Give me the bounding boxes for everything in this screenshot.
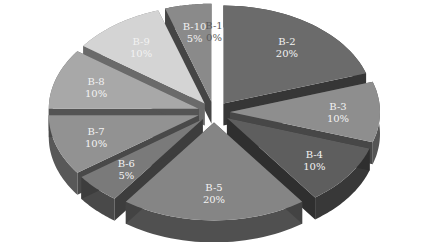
pie-chart: B-10%B-220%B-310%B-410%B-520%B-65%B-710%… <box>0 0 423 242</box>
slice-value-b-4: 10% <box>303 161 325 172</box>
slice-value-b-10: 5% <box>187 33 203 44</box>
slice-label-b-6: B-6 <box>118 158 135 169</box>
slice-value-b-8: 10% <box>85 88 107 99</box>
slice-value-b-2: 20% <box>276 48 298 59</box>
slice-value-b-3: 10% <box>327 113 349 124</box>
slice-label-b-3: B-3 <box>329 101 346 112</box>
slice-label-b-5: B-5 <box>205 182 222 193</box>
slice-label-b-10: B-10 <box>183 21 207 32</box>
slice-label-b-2: B-2 <box>278 36 295 47</box>
slice-value-b-9: 10% <box>130 48 152 59</box>
slice-label-b-1: B-1 <box>205 20 222 31</box>
slice-value-b-6: 5% <box>118 170 134 181</box>
slice-label-b-7: B-7 <box>87 126 104 137</box>
slice-value-b-7: 10% <box>85 138 107 149</box>
slice-label-b-8: B-8 <box>87 76 104 87</box>
slice-value-b-1: 0% <box>206 32 222 43</box>
slice-label-b-9: B-9 <box>132 36 149 47</box>
slice-value-b-5: 20% <box>203 194 225 205</box>
slice-label-b-4: B-4 <box>306 149 323 160</box>
